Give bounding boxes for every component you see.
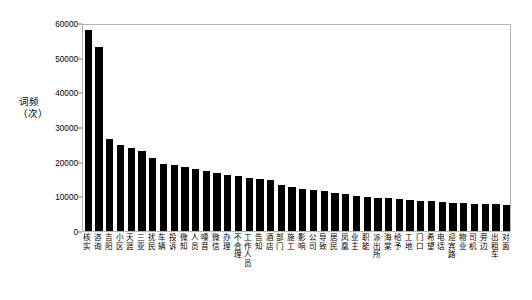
bar <box>492 204 499 231</box>
x-axis-tick-label: 施 工 <box>286 234 297 251</box>
x-axis-tick-label: 核 实 <box>82 234 93 251</box>
x-axis-tick-label: 迎 宾 路 <box>447 234 458 260</box>
x-axis-tick-label: 凤 凰 <box>339 234 350 251</box>
y-axis-title: 词频 （次） <box>18 96 40 119</box>
x-axis-tick-label: 酒 店 <box>264 234 275 251</box>
y-axis-tick-label: 20000 <box>55 158 78 167</box>
bar <box>396 199 403 231</box>
x-axis-tick-label: 职 能 <box>361 234 372 251</box>
x-axis-tick-label: 业 主 <box>350 234 361 251</box>
x-axis-tick-label: 告 知 <box>254 234 265 251</box>
bar <box>203 171 210 231</box>
x-axis-tick-label: 门 口 <box>414 234 425 251</box>
bar <box>331 193 338 231</box>
y-axis-tick-mark <box>78 232 82 233</box>
bar <box>364 197 371 231</box>
x-axis-tick-label: 吉 阳 <box>103 234 114 251</box>
bar <box>439 202 446 231</box>
bar <box>353 196 360 231</box>
y-axis-tick-label: 50000 <box>55 54 78 63</box>
bar <box>192 169 199 231</box>
bar <box>374 198 381 231</box>
x-axis-tick-label: 居 民 <box>329 234 340 251</box>
bar <box>449 203 456 231</box>
x-axis-tick-label: 工 地 <box>404 234 415 251</box>
bar <box>256 179 263 231</box>
x-axis-tick-label: 影 响 <box>297 234 308 251</box>
x-axis-tick-label: 扰 民 <box>146 234 157 251</box>
bar <box>406 200 413 231</box>
bar <box>385 198 392 231</box>
x-axis-tick-label: 微 信 <box>211 234 222 251</box>
y-axis-tick-mark <box>78 197 82 198</box>
x-axis-tick-label: 部 门 <box>275 234 286 251</box>
bar <box>460 203 467 231</box>
y-axis-tick-mark <box>78 24 82 25</box>
bars-layer <box>83 25 510 231</box>
y-axis-tick-mark <box>78 58 82 59</box>
bar <box>428 201 435 231</box>
bar <box>106 139 113 231</box>
y-axis-tick-label: 40000 <box>55 89 78 98</box>
bar <box>471 204 478 231</box>
bar <box>95 47 102 231</box>
x-axis-tick-label: 小 区 <box>114 234 125 251</box>
x-axis-tick-label: 派 出 所 <box>372 234 383 260</box>
x-axis-tick-label: 希 望 <box>425 234 436 251</box>
bar <box>128 148 135 231</box>
y-axis-tick-label: 60000 <box>55 20 78 29</box>
x-axis-tick-label: 公 司 <box>307 234 318 251</box>
bar <box>299 189 306 231</box>
bar <box>117 145 124 231</box>
x-axis-tick-label: 三 亚 <box>136 234 147 251</box>
x-axis-tick-label: 不 合 理 <box>232 234 243 260</box>
bar <box>224 175 231 232</box>
x-axis-tick-label: 人 员 <box>189 234 200 251</box>
bar <box>85 30 92 231</box>
x-axis-tick-label: 导 致 <box>318 234 329 251</box>
x-axis-tick-label: 旁 边 <box>479 234 490 251</box>
x-axis-tick-label: 噪 音 <box>200 234 211 251</box>
x-axis-tick-label: 工 作 人 员 <box>243 234 254 268</box>
y-axis-tick-label: 10000 <box>55 193 78 202</box>
bar <box>246 178 253 231</box>
x-axis-tick-label: 海 棠 <box>382 234 393 251</box>
x-axis-tick-label: 微 知 <box>179 234 190 251</box>
bar <box>310 190 317 231</box>
bar <box>181 167 188 231</box>
x-axis-tick-label: 给 予 <box>393 234 404 251</box>
bar-chart: 词频 （次） 0100002000030000400005000060000 核… <box>0 0 532 300</box>
bar <box>417 201 424 232</box>
bar <box>235 176 242 231</box>
x-axis-tick-label: 出 租 车 <box>490 234 501 260</box>
bar <box>342 194 349 231</box>
x-axis-tick-label: 对 面 <box>500 234 511 251</box>
y-axis-tick-labels: 0100002000030000400005000060000 <box>40 0 78 300</box>
y-axis-tick-mark <box>78 93 82 94</box>
bar <box>482 204 489 231</box>
bar <box>503 205 510 231</box>
x-axis-tick-label: 车 辆 <box>157 234 168 251</box>
y-axis-tick-label: 30000 <box>55 124 78 133</box>
bar <box>171 165 178 231</box>
x-axis-tick-label: 司 机 <box>468 234 479 251</box>
bar <box>278 185 285 231</box>
bar <box>267 180 274 231</box>
bar <box>149 158 156 231</box>
y-axis-tick-mark <box>78 128 82 129</box>
y-axis-tick-mark <box>78 162 82 163</box>
bar <box>160 164 167 231</box>
x-axis-tick-label: 天 涯 <box>125 234 136 251</box>
x-axis-tick-label: 电 话 <box>436 234 447 251</box>
bar <box>321 191 328 231</box>
x-axis-tick-label: 办 理 <box>221 234 232 251</box>
bar <box>288 187 295 231</box>
x-axis-tick-label: 咨 询 <box>93 234 104 251</box>
plot-area <box>82 24 511 232</box>
x-axis-tick-labels: 核 实咨 询吉 阳小 区天 涯三 亚扰 民车 辆投 诉微 知人 员噪 音微 信办… <box>82 234 511 298</box>
bar <box>213 173 220 231</box>
x-axis-tick-label: 物 业 <box>457 234 468 251</box>
bar <box>138 151 145 231</box>
x-axis-tick-label: 投 诉 <box>168 234 179 251</box>
